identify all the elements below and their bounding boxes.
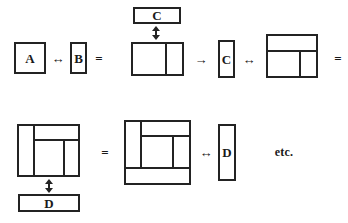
- arrow-head-down: [152, 35, 160, 40]
- op-swap-ab: ↔: [48, 50, 68, 66]
- box-d-right-label: D: [218, 124, 236, 181]
- composite-full-left-band-divider: [140, 122, 142, 169]
- composite-rotated: [17, 124, 80, 177]
- diagram-canvas: A ↔ B = C → C ↔ = D: [0, 0, 348, 223]
- arrow-head-up: [45, 179, 53, 184]
- composite-cab-cell-divider: [299, 50, 301, 76]
- composite-full-top-divider: [140, 135, 189, 137]
- composite-full-cell-divider: [172, 135, 174, 169]
- op-equals-3: =: [98, 144, 112, 160]
- op-swap-d: ↔: [196, 144, 216, 160]
- composite-ab: [131, 42, 184, 76]
- composite-rotated-top-divider: [33, 139, 78, 141]
- arrow-head-up: [152, 26, 160, 31]
- composite-cab: [266, 34, 318, 78]
- composite-full-bottom-band-divider: [126, 167, 189, 169]
- composite-ab-divider: [165, 44, 167, 74]
- op-equals-1: =: [92, 50, 106, 66]
- text-etc: etc.: [264, 144, 304, 160]
- composite-rotated-band-divider: [33, 126, 35, 175]
- box-d-bottom-label: D: [18, 194, 80, 212]
- op-implies: →: [193, 51, 209, 67]
- box-a-label: A: [14, 42, 46, 74]
- op-equals-2: =: [331, 50, 345, 66]
- arrow-head-down: [45, 188, 53, 193]
- op-swap-c: ↔: [239, 51, 259, 67]
- box-c-mid-label: C: [218, 40, 235, 78]
- box-c-top-label: C: [133, 7, 181, 24]
- box-b-label: B: [70, 42, 87, 74]
- op-vjoin-c-arrow: [150, 26, 161, 40]
- composite-rotated-cell-divider: [63, 139, 65, 175]
- op-vjoin-d-arrow: [43, 179, 54, 193]
- composite-full: [124, 120, 191, 185]
- composite-cab-band-divider: [268, 50, 316, 52]
